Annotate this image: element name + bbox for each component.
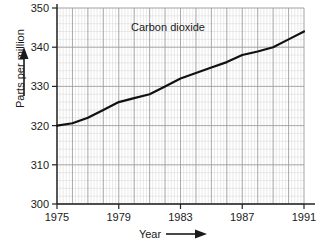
x-tick-label: 1979: [107, 211, 131, 223]
x-tick-label: 1987: [230, 211, 254, 223]
x-tick-label: 1983: [168, 211, 192, 223]
y-axis-title: Parts per million: [14, 29, 26, 108]
x-tick-label: 1975: [45, 211, 69, 223]
y-tick-label: 310: [31, 159, 49, 171]
chart-figure: 300310320330340350 19751979198319871991 …: [0, 0, 328, 245]
y-tick-label: 300: [31, 198, 49, 210]
y-tick-label: 330: [31, 80, 49, 92]
y-tick-label: 350: [31, 2, 49, 14]
carbon-dioxide-line-chart: 300310320330340350 19751979198319871991 …: [0, 0, 328, 245]
y-tick-label: 340: [31, 41, 49, 53]
chart-background: [0, 0, 328, 245]
x-tick-label: 1991: [292, 211, 316, 223]
plot-title: Carbon dioxide: [131, 21, 205, 33]
x-axis-title: Year: [139, 228, 162, 240]
y-tick-label: 320: [31, 120, 49, 132]
